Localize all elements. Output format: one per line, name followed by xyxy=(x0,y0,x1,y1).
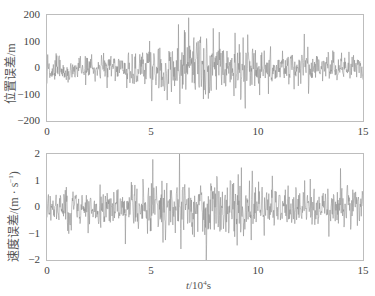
x-tick: 5 xyxy=(139,126,163,137)
x-tick: 0 xyxy=(35,126,59,137)
velocity-error-y-label-close: ) xyxy=(7,171,21,175)
x-tick: 15 xyxy=(351,126,375,137)
x-label-unit: s xyxy=(207,279,211,291)
position-error-line xyxy=(47,15,363,121)
velocity-error-line xyxy=(47,154,363,260)
y-tick: −200 xyxy=(10,115,40,126)
x-label-prefix: /10 xyxy=(189,279,203,291)
velocity-error-y-label: 速度误差/(m · s−1) xyxy=(5,171,21,262)
x-tick: 15 xyxy=(351,265,375,276)
x-tick: 10 xyxy=(246,265,270,276)
x-tick: 5 xyxy=(139,265,163,276)
velocity-error-y-label-exponent: −1 xyxy=(7,175,15,182)
time-x-label: t/104s xyxy=(186,279,211,291)
velocity-error-y-label-main: 速度误差/(m · s xyxy=(7,183,21,262)
y-tick: 200 xyxy=(10,9,40,20)
position-error-y-label: 位置误差/m xyxy=(5,43,18,104)
y-tick: 2 xyxy=(10,148,40,159)
x-tick: 10 xyxy=(246,126,270,137)
x-tick: 0 xyxy=(35,265,59,276)
